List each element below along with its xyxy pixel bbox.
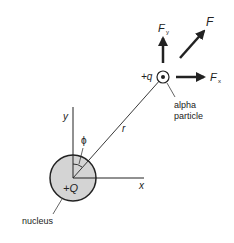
angle-label: ϕ xyxy=(81,135,87,146)
rutherford-scattering-diagram: F F y F x +q alpha particle r ϕ y x +Q n… xyxy=(0,0,234,243)
x-axis-label: x xyxy=(138,180,145,191)
particle-leader xyxy=(167,83,175,97)
nucleus-leader xyxy=(53,199,62,214)
force-y-subscript: y xyxy=(166,29,169,35)
nucleus-label: nucleus xyxy=(22,216,54,226)
force-label: F xyxy=(206,15,214,29)
force-x-label: F xyxy=(210,71,218,83)
particle-name-line1: alpha xyxy=(174,100,196,110)
y-axis-label: y xyxy=(62,111,69,122)
force-arrow xyxy=(180,31,204,58)
distance-label: r xyxy=(122,123,126,134)
diagram-canvas: F F y F x +q alpha particle r ϕ y x +Q n… xyxy=(0,0,234,243)
nucleus-charge-label: +Q xyxy=(63,182,78,194)
particle-name-line2: particle xyxy=(174,111,203,121)
alpha-particle-core xyxy=(161,75,165,79)
force-y-label: F xyxy=(158,22,166,34)
distance-line xyxy=(73,79,161,178)
force-x-subscript: x xyxy=(218,78,221,84)
particle-charge-label: +q xyxy=(141,71,153,82)
